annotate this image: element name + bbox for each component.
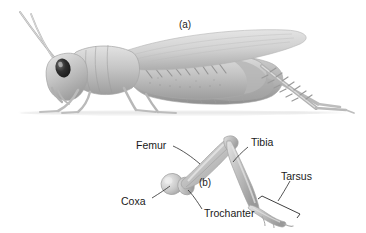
label-femur: Femur — [136, 139, 167, 151]
figure-svg: (a) — [0, 0, 366, 233]
head-capsule — [46, 53, 87, 100]
coxa-highlight — [165, 177, 173, 184]
panel-b-label: (b) — [199, 177, 211, 188]
canvas-background — [0, 0, 366, 233]
panel-a-label: (a) — [179, 19, 191, 30]
figure-container: (a) — [0, 0, 366, 233]
label-tarsus: Tarsus — [281, 170, 312, 182]
label-coxa: Coxa — [121, 195, 146, 207]
label-trochanter: Trochanter — [204, 207, 255, 219]
label-tibia: Tibia — [251, 136, 274, 148]
